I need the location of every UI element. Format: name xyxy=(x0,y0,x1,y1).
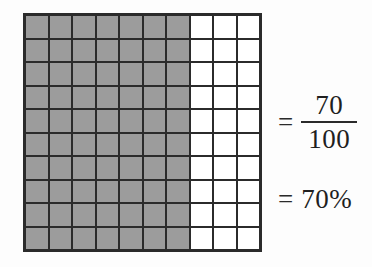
grid-cell-shaded xyxy=(73,204,95,226)
grid-cell-shaded xyxy=(97,157,119,179)
grid-cell-shaded xyxy=(73,16,95,38)
hundred-grid xyxy=(23,13,262,252)
grid-cell-shaded xyxy=(97,228,119,250)
grid-cell-shaded xyxy=(167,181,189,203)
grid-cell-shaded xyxy=(73,87,95,109)
grid-cell-shaded xyxy=(167,228,189,250)
grid-cell-shaded xyxy=(97,63,119,85)
grid-cell-shaded xyxy=(120,110,142,132)
grid-cell-empty xyxy=(191,181,213,203)
grid-cell-shaded xyxy=(73,228,95,250)
grid-cell-empty xyxy=(191,134,213,156)
percent-expression: = 70% xyxy=(278,186,372,213)
grid-cell-shaded xyxy=(50,40,72,62)
grid-cell-shaded xyxy=(144,181,166,203)
grid-cell-empty xyxy=(238,134,260,156)
grid-cell-shaded xyxy=(97,40,119,62)
grid-cell-shaded xyxy=(73,157,95,179)
grid-cell-shaded xyxy=(26,63,48,85)
grid-cell-shaded xyxy=(120,63,142,85)
grid-cell-empty xyxy=(191,228,213,250)
grid-cell-shaded xyxy=(144,228,166,250)
grid-cell-shaded xyxy=(144,204,166,226)
grid-cell-empty xyxy=(214,181,236,203)
grid-cell-empty xyxy=(214,134,236,156)
percent-line: = 70% xyxy=(278,186,372,213)
grid-cell-shaded xyxy=(50,63,72,85)
grid-cell-shaded xyxy=(97,134,119,156)
grid-cell-shaded xyxy=(167,157,189,179)
grid-cell-empty xyxy=(191,87,213,109)
percent-value: 70% xyxy=(301,186,352,213)
grid-cell-shaded xyxy=(97,204,119,226)
fraction-expression: = 70 100 xyxy=(278,92,372,153)
fraction-denominator: 100 xyxy=(305,123,353,153)
grid-cell-empty xyxy=(191,40,213,62)
grid-cell-empty xyxy=(214,204,236,226)
grid-cell-shaded xyxy=(50,16,72,38)
grid-cell-shaded xyxy=(167,16,189,38)
grid-cell-shaded xyxy=(167,204,189,226)
grid-cell-shaded xyxy=(50,181,72,203)
grid-cell-shaded xyxy=(50,87,72,109)
grid-cell-shaded xyxy=(50,134,72,156)
grid-cell-shaded xyxy=(97,110,119,132)
grid-cell-shaded xyxy=(73,181,95,203)
fraction: 70 100 xyxy=(301,92,357,153)
grid-cell-shaded xyxy=(26,16,48,38)
grid-cell-empty xyxy=(214,63,236,85)
grid-cell-shaded xyxy=(26,40,48,62)
grid-cell-shaded xyxy=(26,204,48,226)
grid-cell-empty xyxy=(238,40,260,62)
grid-cell-shaded xyxy=(120,228,142,250)
grid-cell-shaded xyxy=(73,134,95,156)
grid-cell-shaded xyxy=(73,110,95,132)
grid-cell-shaded xyxy=(97,16,119,38)
grid-cell-empty xyxy=(238,63,260,85)
grid-cell-shaded xyxy=(50,157,72,179)
grid-cell-shaded xyxy=(120,204,142,226)
grid-cell-shaded xyxy=(144,16,166,38)
grid-cell-empty xyxy=(191,16,213,38)
grid-cell-shaded xyxy=(120,134,142,156)
grid-cell-shaded xyxy=(167,87,189,109)
grid-cell-shaded xyxy=(26,110,48,132)
grid-cell-empty xyxy=(238,204,260,226)
grid-cell-empty xyxy=(214,157,236,179)
grid-cell-shaded xyxy=(26,87,48,109)
grid-cell-empty xyxy=(214,16,236,38)
fraction-line: = 70 100 xyxy=(278,92,372,153)
grid-cell-empty xyxy=(214,40,236,62)
grid-cell-shaded xyxy=(120,87,142,109)
grid-cell-shaded xyxy=(144,157,166,179)
grid-cell-empty xyxy=(238,110,260,132)
grid-cell-empty xyxy=(238,228,260,250)
grid-cell-empty xyxy=(214,87,236,109)
grid-cell-shaded xyxy=(167,40,189,62)
equals-sign-2: = xyxy=(278,186,293,213)
grid-cell-shaded xyxy=(26,181,48,203)
grid-cell-shaded xyxy=(144,134,166,156)
grid-cell-shaded xyxy=(144,40,166,62)
grid-cell-shaded xyxy=(120,40,142,62)
grid-cell-shaded xyxy=(167,110,189,132)
grid-cell-shaded xyxy=(50,110,72,132)
grid-cell-shaded xyxy=(167,63,189,85)
percent-grid-figure: = 70 100 = 70% xyxy=(0,0,372,267)
grid-cell-shaded xyxy=(50,228,72,250)
grid-cell-empty xyxy=(191,204,213,226)
grid-cell-shaded xyxy=(50,204,72,226)
grid-cell-empty xyxy=(191,110,213,132)
grid-cell-empty xyxy=(191,63,213,85)
grid-cell-shaded xyxy=(167,134,189,156)
grid-cell-shaded xyxy=(26,228,48,250)
grid-cell-empty xyxy=(214,110,236,132)
grid-cell-empty xyxy=(238,16,260,38)
fraction-numerator: 70 xyxy=(312,92,346,121)
grid-cell-empty xyxy=(238,181,260,203)
grid-cell-shaded xyxy=(120,157,142,179)
grid-cell-shaded xyxy=(26,134,48,156)
grid-cell-shaded xyxy=(26,157,48,179)
grid-cell-empty xyxy=(238,157,260,179)
grid-cell-shaded xyxy=(97,87,119,109)
